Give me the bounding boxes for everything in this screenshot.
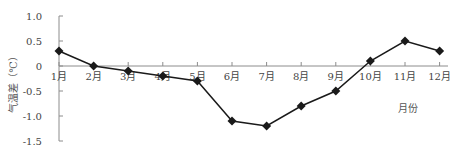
data-series [55, 37, 445, 131]
x-tick-label: 6月 [224, 71, 240, 82]
diamond-marker [297, 102, 306, 111]
x-axis-title: 月份 [398, 103, 418, 114]
x-tick-label: 12月 [428, 71, 451, 82]
y-tick-label: -1.0 [23, 111, 42, 122]
x-tick-label: 7月 [258, 71, 274, 82]
x-tick-label: 2月 [85, 71, 101, 82]
x-tick-label: 11月 [394, 71, 417, 82]
x-tick-label: 9月 [328, 71, 344, 82]
diamond-marker [89, 62, 98, 71]
y-tick-label: -0.5 [23, 86, 42, 97]
x-tick-label: 10月 [359, 71, 382, 82]
x-axis: 1月2月3月4月5月6月7月8月9月10月11月12月 [51, 62, 451, 82]
y-tick-label: 0 [36, 61, 42, 72]
series-line [59, 41, 440, 126]
y-tick-label: 0.5 [26, 36, 42, 47]
y-tick-label: -1.5 [23, 136, 42, 147]
x-tick-label: 8月 [293, 71, 309, 82]
diamond-marker [401, 37, 410, 46]
diamond-marker [55, 47, 64, 56]
y-tick-label: 1.0 [26, 11, 42, 22]
diamond-marker [435, 47, 444, 56]
diamond-marker [262, 122, 271, 131]
y-axis-title: 气温差（℃） [7, 51, 19, 112]
x-tick-label: 1月 [51, 71, 67, 82]
line-chart: 1.00.50-0.5-1.0-1.5 1月2月3月4月5月6月7月8月9月10… [0, 0, 458, 156]
